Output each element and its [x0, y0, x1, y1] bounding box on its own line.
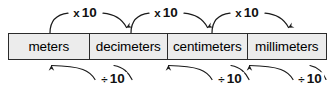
top-arrow-2-label: x 10 — [152, 6, 180, 20]
multiply-symbol: x — [235, 7, 244, 19]
bottom-arrow-3-label: ÷ 10 — [296, 72, 324, 86]
divide-symbol: ÷ — [298, 73, 307, 85]
divide-symbol: ÷ — [101, 73, 110, 85]
unit-label-meters: meters — [28, 40, 69, 54]
divide-value: 10 — [227, 71, 242, 86]
multiply-symbol: x — [154, 7, 163, 19]
unit-label-centimeters: centimeters — [173, 40, 242, 54]
multiply-symbol: x — [73, 7, 82, 19]
top-arrow-3-label: x 10 — [233, 6, 261, 20]
divide-value: 10 — [110, 71, 125, 86]
metric-conversion-diagram: x 10 x 10 x 10 meters decimeters centime… — [0, 0, 335, 94]
unit-label-decimeters: decimeters — [96, 40, 161, 54]
top-arrow-1-label: x 10 — [71, 6, 99, 20]
bottom-arrow-2-label: ÷ 10 — [216, 72, 244, 86]
unit-box-meters[interactable]: meters — [9, 34, 90, 59]
unit-box-centimeters[interactable]: centimeters — [168, 34, 248, 59]
divide-value: 10 — [307, 71, 322, 86]
unit-label-millimeters: millimeters — [255, 40, 318, 54]
unit-box-row: meters decimeters centimeters millimeter… — [8, 33, 327, 60]
multiply-value: 10 — [244, 5, 259, 20]
unit-box-millimeters[interactable]: millimeters — [248, 34, 327, 59]
divide-symbol: ÷ — [218, 73, 227, 85]
bottom-arrow-1-label: ÷ 10 — [99, 72, 127, 86]
multiply-value: 10 — [82, 5, 97, 20]
multiply-value: 10 — [163, 5, 178, 20]
unit-box-decimeters[interactable]: decimeters — [90, 34, 169, 59]
